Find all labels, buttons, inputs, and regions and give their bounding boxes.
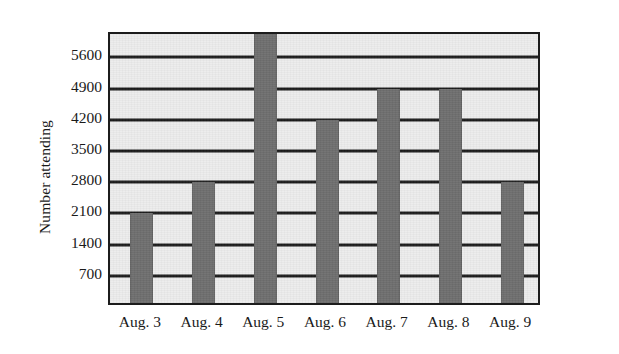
y-axis-tick-label: 1400 [71,235,102,251]
y-axis-tick-label: 700 [79,266,102,282]
x-axis-tick-label-group: Aug. 3Aug. 4Aug. 5Aug. 6Aug. 7Aug. 8Aug.… [108,312,540,338]
x-axis-tick-label: Aug. 8 [427,312,469,333]
bar [192,182,215,305]
x-axis-tick-label: Aug. 5 [242,312,284,333]
bar-chart: Number attending 56004900420035002800210… [0,0,619,354]
bar [130,213,153,305]
bar [377,89,400,305]
gridline [110,56,538,59]
y-axis-tick-label: 2100 [71,204,102,220]
gridline [110,87,538,90]
y-axis-tick-label: 5600 [71,48,102,64]
x-axis-tick-label: Aug. 6 [304,312,346,333]
x-axis-tick-label: Aug. 9 [489,312,531,333]
y-axis-tick-label: 4200 [71,110,102,126]
bar [316,120,339,305]
bar [439,89,462,305]
y-axis-tick-label: 2800 [71,172,102,188]
y-axis-tick-label: 4900 [71,79,102,95]
bar [254,32,277,305]
x-axis-tick-label: Aug. 7 [366,312,408,333]
y-axis-tick-label-group: 5600490042003500280021001400700 [40,32,102,305]
plot-area [108,32,540,305]
bar [501,182,524,305]
x-axis-tick-label: Aug. 3 [119,312,161,333]
x-axis-tick-label: Aug. 4 [180,312,222,333]
y-axis-tick-label: 3500 [71,141,102,157]
